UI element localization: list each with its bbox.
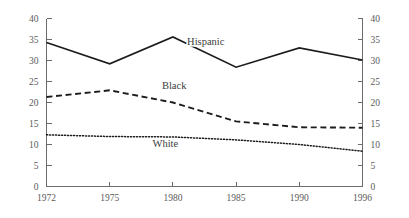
series-line-black bbox=[47, 90, 363, 127]
x-tick-label: 1972 bbox=[37, 193, 56, 203]
right-y-tick-label: 10 bbox=[371, 140, 381, 150]
right-y-tick-label: 20 bbox=[371, 98, 381, 108]
left-y-tick-label: 15 bbox=[29, 119, 39, 129]
series-label-black: Black bbox=[162, 80, 187, 91]
series-label-hispanic: Hispanic bbox=[187, 36, 225, 47]
line-chart: 0510152025303540 0510152025303540 197219… bbox=[0, 0, 409, 218]
right-y-tick-label: 30 bbox=[371, 56, 381, 66]
chart-container: 0510152025303540 0510152025303540 197219… bbox=[0, 0, 409, 218]
right-y-tick-label: 25 bbox=[371, 77, 381, 87]
left-y-tick-label: 25 bbox=[29, 77, 39, 87]
x-tick-label: 1985 bbox=[227, 193, 246, 203]
left-y-tick-label: 40 bbox=[29, 14, 39, 24]
right-y-tick-label: 0 bbox=[371, 182, 376, 192]
x-tick-label: 1996 bbox=[353, 193, 372, 203]
right-y-tick-label: 35 bbox=[371, 35, 381, 45]
right-y-tick-label: 5 bbox=[371, 161, 376, 171]
right-y-tick-label: 15 bbox=[371, 119, 381, 129]
left-y-tick-label: 5 bbox=[34, 161, 39, 171]
right-y-tick-labels: 0510152025303540 bbox=[371, 14, 381, 192]
left-y-tick-label: 30 bbox=[29, 56, 39, 66]
x-tick-label: 1980 bbox=[163, 193, 182, 203]
left-y-tick-label: 0 bbox=[34, 182, 39, 192]
x-tick-label: 1990 bbox=[290, 193, 309, 203]
left-y-tick-label: 35 bbox=[29, 35, 39, 45]
x-tick-label: 1975 bbox=[100, 193, 119, 203]
right-y-tick-label: 40 bbox=[371, 14, 381, 24]
left-y-tick-labels: 0510152025303540 bbox=[29, 14, 39, 192]
series-line-white bbox=[47, 135, 363, 151]
left-y-tick-label: 10 bbox=[29, 140, 39, 150]
x-tick-labels: 197219751980198519901996 bbox=[37, 193, 372, 203]
series-lines-group bbox=[47, 37, 363, 151]
left-y-tick-label: 20 bbox=[29, 98, 39, 108]
series-inline-labels: HispanicHispanicBlackBlackWhiteWhite bbox=[152, 36, 224, 149]
series-label-white: White bbox=[152, 138, 178, 149]
